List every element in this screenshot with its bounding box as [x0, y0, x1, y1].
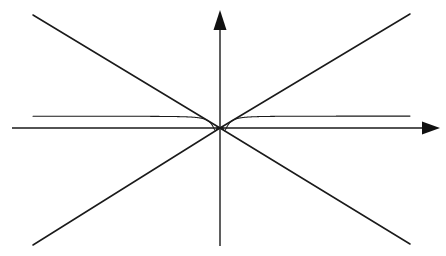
y-axis-arrowhead-icon: [214, 10, 227, 30]
plot-canvas: [0, 0, 446, 256]
upper-envelope-line: [33, 14, 410, 128]
lower-envelope-line: [33, 128, 410, 245]
x-axis-arrowhead-icon: [422, 122, 440, 135]
plot-figure: [0, 0, 446, 256]
